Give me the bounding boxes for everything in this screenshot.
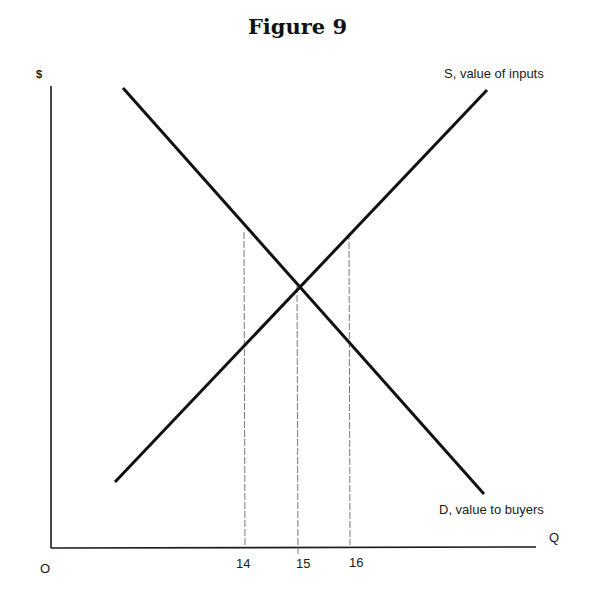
supply-label: S, value of inputs — [444, 66, 544, 81]
x-tick-14: 14 — [236, 556, 250, 571]
supply-line — [115, 90, 487, 482]
x-axis — [51, 547, 536, 548]
reference-line-14 — [244, 232, 245, 545]
chart-canvas: $ S, value of inputs D, value to buyers … — [0, 0, 595, 604]
x-tick-16: 16 — [349, 555, 363, 570]
reference-line-16 — [349, 233, 350, 545]
demand-label: D, value to buyers — [439, 502, 544, 517]
x-axis-label: Q — [549, 530, 559, 545]
origin-label: O — [40, 561, 50, 576]
y-axis-label: $ — [36, 68, 42, 80]
reference-line-15 — [297, 286, 298, 554]
x-tick-15: 15 — [296, 556, 310, 571]
